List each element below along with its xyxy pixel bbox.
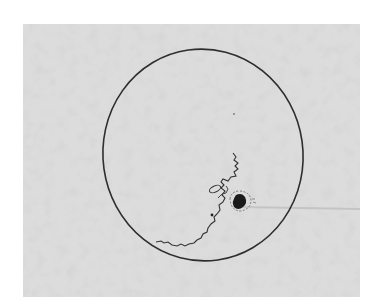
tiny-spot — [211, 214, 214, 217]
tiny-spot — [233, 113, 235, 115]
paper-texture — [23, 24, 360, 297]
sketch — [0, 0, 378, 308]
